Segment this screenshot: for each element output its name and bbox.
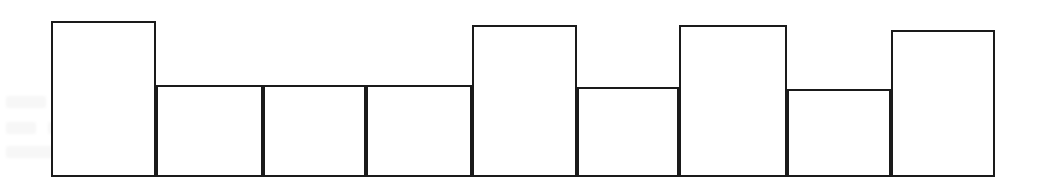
histogram-bar — [578, 88, 678, 176]
histogram-bar — [788, 90, 890, 176]
histogram-bar — [157, 86, 262, 176]
histogram-bar — [473, 26, 576, 176]
histogram-bar — [52, 22, 155, 176]
histogram-figure — [0, 0, 1049, 195]
histogram-bar — [264, 86, 365, 176]
histogram-bar — [367, 86, 471, 176]
histogram-bar — [680, 26, 786, 176]
histogram-bar — [892, 31, 994, 176]
histogram-plot — [0, 0, 1049, 195]
bars-group — [52, 22, 994, 176]
